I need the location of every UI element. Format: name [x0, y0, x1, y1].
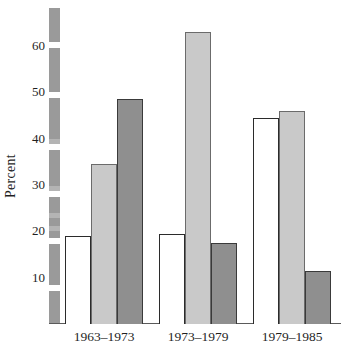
bar[interactable]: [211, 243, 237, 324]
y-axis-bar-faint: [49, 226, 60, 231]
y-axis-tick-label: 30: [32, 178, 45, 191]
bar[interactable]: [117, 99, 143, 324]
x-axis-tick-label: 1963–1973: [74, 330, 135, 344]
y-axis-tick-label: 20: [32, 224, 45, 237]
y-axis-bar-gap: [49, 191, 60, 197]
y-axis-bar-faint: [49, 213, 60, 218]
x-axis-tick-labels: 1963–19731973–19791979–1985: [60, 327, 345, 351]
y-axis-tick-label: 60: [32, 39, 45, 52]
y-axis-tick-labels: 102030405060: [22, 0, 48, 351]
bar[interactable]: [185, 32, 211, 324]
y-axis-tick-label: 50: [32, 85, 45, 98]
bar[interactable]: [65, 236, 91, 324]
bar[interactable]: [305, 271, 331, 324]
bar[interactable]: [279, 111, 305, 324]
y-axis-bar-gap: [49, 42, 60, 48]
y-axis-tick-label: 40: [32, 131, 45, 144]
plot-area: [60, 8, 343, 324]
bar-group: [65, 8, 143, 324]
x-axis-tick-label: 1973–1979: [168, 330, 229, 344]
y-axis-bar: [49, 8, 60, 324]
bar-group: [253, 8, 331, 324]
bar-chart: Percent 102030405060 1963–19731973–19791…: [0, 0, 345, 351]
bar-group: [159, 8, 237, 324]
y-axis-title-text: Percent: [3, 153, 19, 197]
x-axis-tick-label: 1979–1985: [262, 330, 323, 344]
y-axis-bar-gap: [49, 144, 60, 150]
y-axis-tick-label: 10: [32, 270, 45, 283]
bar[interactable]: [91, 164, 117, 324]
bar[interactable]: [159, 234, 185, 324]
y-axis-bar-gap: [49, 285, 60, 291]
y-axis-title: Percent: [0, 0, 22, 351]
y-axis-bar-gap: [49, 238, 60, 244]
y-axis-bar-gap: [49, 92, 60, 98]
bar[interactable]: [253, 118, 279, 324]
